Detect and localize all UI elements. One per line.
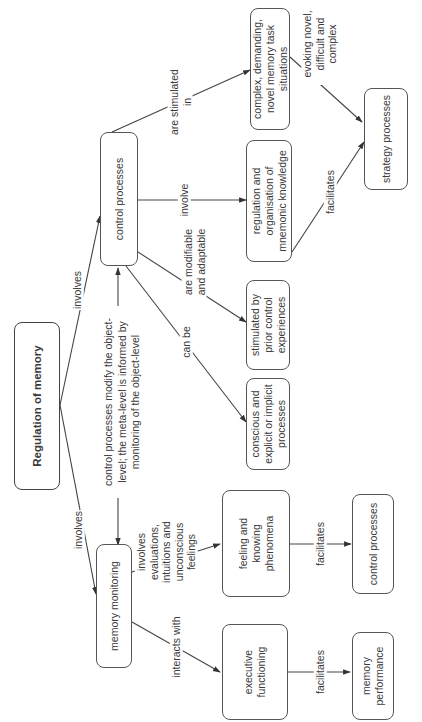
- node-feeling-knowing-phenomena: feeling and knowing phenomena: [222, 490, 290, 597]
- link-label-facilitates-strategy: facilitates: [324, 169, 337, 215]
- concept-map: Regulation of memory control processes m…: [0, 0, 422, 722]
- node-regulation-of-memory: Regulation of memory: [14, 322, 60, 490]
- node-executive-functioning: executive functioning: [222, 624, 288, 720]
- node-conscious-explicit-implicit: conscious and explicit or implicit proce…: [246, 378, 290, 470]
- link-label-evoking-novel: evoking novel, difficult and complex: [301, 3, 339, 85]
- connector-lines: [0, 0, 422, 722]
- node-control-processes-2: control processes: [352, 494, 394, 594]
- node-memory-performance: memory performance: [352, 632, 394, 720]
- link-label-involves-control: involves: [71, 270, 84, 310]
- node-stimulated-by-prior-experiences: stimulated by prior control experiences: [246, 280, 290, 370]
- link-label-facilitates-control: facilitates: [314, 521, 327, 567]
- node-memory-monitoring: memory monitoring: [96, 544, 132, 668]
- link-label-facilitates-performance: facilitates: [314, 649, 327, 695]
- node-regulation-organisation: regulation and organisation of mnemonic …: [246, 140, 292, 262]
- link-label-can-be: can be: [180, 325, 193, 359]
- link-label-are-stimulated-in: are stimulated in: [168, 66, 193, 138]
- node-strategy-processes: strategy processes: [364, 88, 408, 190]
- link-label-involves-monitoring: involves: [72, 510, 85, 550]
- link-label-evaluations-intuitions: involves evaluations, intuitions and unc…: [135, 511, 198, 593]
- link-label-modifiable-adaptable: are modifiable and adaptable: [182, 221, 207, 303]
- link-label-involve: involve: [178, 183, 191, 218]
- node-complex-task-situations: complex, demanding, novel memory task si…: [250, 8, 290, 130]
- node-control-processes: control processes: [100, 132, 138, 266]
- link-label-object-meta-level: control processes modify the object-leve…: [102, 306, 143, 498]
- link-label-interacts-with: interacts with: [170, 615, 183, 678]
